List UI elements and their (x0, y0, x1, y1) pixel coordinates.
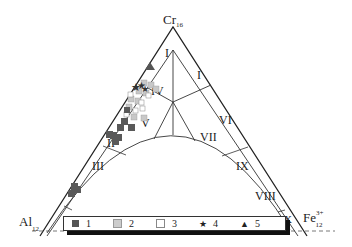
svg-text:★: ★ (141, 84, 149, 94)
ternary-diagram: Cr16 Al12 Fe3+12 I I IV V II III VI VII … (0, 0, 352, 247)
gray-square-icon (113, 219, 122, 228)
inner-right-line (173, 50, 298, 236)
field-VIII: VIII (255, 189, 276, 203)
field-VII: VII (200, 130, 217, 144)
points-type1 (68, 107, 135, 197)
field-VI: VI (219, 113, 232, 127)
legend: 1 2 3 ★ 4 ▲ 5 (63, 216, 286, 231)
legend-item-5: ▲ 5 (240, 218, 260, 229)
legend-item-4: ★ 4 (199, 218, 218, 229)
vertex-cr-label: Cr16 (163, 12, 184, 29)
legend-item-3: 3 (156, 218, 177, 229)
open-square-icon (156, 219, 165, 228)
field-I-left: I (165, 46, 169, 60)
field-III: III (92, 159, 104, 173)
vertex-al-label: Al12 (19, 214, 40, 233)
star-icon: ★ (199, 219, 207, 229)
outer-triangle (40, 27, 307, 236)
legend-item-1: 1 (72, 218, 91, 229)
tick-right-1 (222, 147, 248, 156)
triangle-icon: ▲ (240, 219, 249, 229)
field-I-right: I (197, 68, 201, 82)
node-left-down (154, 102, 173, 139)
node-right-up (173, 85, 211, 102)
point-triangle (145, 62, 155, 70)
field-IX: IX (236, 159, 249, 173)
dark-square-icon (72, 220, 79, 227)
node-right-down (173, 102, 195, 141)
legend-item-2: 2 (113, 218, 134, 229)
vertex-fe-label: Fe3+12 (303, 209, 324, 229)
